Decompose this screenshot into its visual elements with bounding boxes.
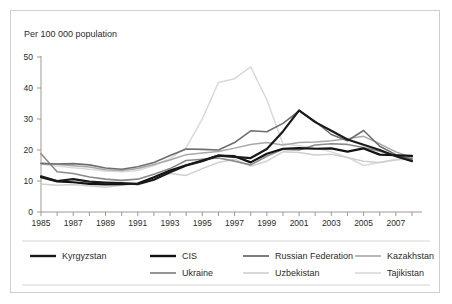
x-tick-label: 1995 bbox=[193, 218, 212, 228]
legend-label-kyrgyzstan[interactable]: Kyrgyzstan bbox=[62, 251, 107, 261]
x-tick-label: 1989 bbox=[96, 218, 115, 228]
legend-label-uzbekistan[interactable]: Uzbekistan bbox=[275, 268, 320, 278]
x-tick-label: 1985 bbox=[32, 218, 51, 228]
legend-label-tajikistan[interactable]: Tajikistan bbox=[387, 268, 424, 278]
chart-axis-title: Per 100 000 population bbox=[24, 29, 117, 39]
chart-figure: Per 100 000 population010203040501985198… bbox=[0, 0, 452, 304]
x-tick-label: 2007 bbox=[386, 218, 405, 228]
y-tick-label: 30 bbox=[24, 114, 34, 124]
x-tick-label: 1993 bbox=[161, 218, 180, 228]
line-chart: Per 100 000 population010203040501985198… bbox=[0, 0, 452, 304]
y-tick-label: 0 bbox=[28, 207, 33, 217]
x-tick-label: 1987 bbox=[64, 218, 83, 228]
y-tick-label: 10 bbox=[24, 176, 34, 186]
legend-label-kazakhstan[interactable]: Kazakhstan bbox=[387, 251, 434, 261]
x-tick-label: 2005 bbox=[354, 218, 373, 228]
y-tick-label: 20 bbox=[24, 145, 34, 155]
legend-label-cis[interactable]: CIS bbox=[182, 251, 197, 261]
legend-label-ukraine[interactable]: Ukraine bbox=[182, 268, 213, 278]
series-line-kyrgyzstan bbox=[41, 110, 412, 184]
x-tick-label: 2003 bbox=[322, 218, 341, 228]
x-tick-label: 1997 bbox=[225, 218, 244, 228]
x-tick-label: 1999 bbox=[257, 218, 276, 228]
x-tick-label: 1991 bbox=[128, 218, 147, 228]
y-tick-label: 50 bbox=[24, 52, 34, 62]
y-tick-label: 40 bbox=[24, 83, 34, 93]
legend-label-russian-federation[interactable]: Russian Federation bbox=[275, 251, 353, 261]
x-tick-label: 2001 bbox=[290, 218, 309, 228]
